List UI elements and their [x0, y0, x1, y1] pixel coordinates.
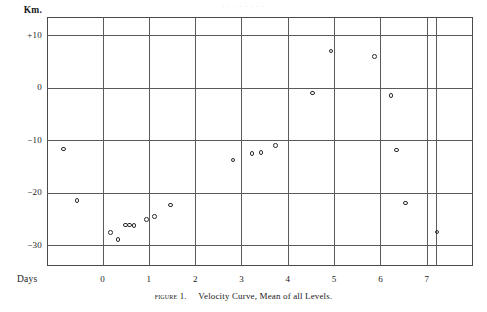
figure-caption: Figure 1. Velocity Curve, Mean of all Le… — [0, 291, 487, 301]
data-point — [259, 150, 264, 155]
gridline-vertical-day-6 — [380, 17, 381, 266]
gridline-vertical-day-0 — [103, 17, 104, 266]
gridline-vertical-day-7 — [427, 17, 428, 266]
gridline-vertical-day-1 — [149, 17, 150, 266]
x-tick-label: 6 — [368, 275, 392, 284]
gridline-vertical-extra — [436, 17, 437, 266]
page-bleed-through-text: · · · · · · · · — [0, 0, 487, 12]
data-point — [310, 91, 315, 96]
gridline-horizontal-0 — [47, 88, 473, 89]
figure-container: · · · · · · · · Km. +100−10−20−30 Days 0… — [0, 0, 487, 312]
y-tick-label: −20 — [27, 188, 42, 197]
x-tick-label: 3 — [229, 275, 253, 284]
x-tick-label: 5 — [322, 275, 346, 284]
gridline-horizontal-minus30 — [47, 245, 473, 246]
gridline-horizontal-minus20 — [47, 193, 473, 194]
y-tick-label: −30 — [27, 241, 42, 250]
data-point — [75, 198, 80, 203]
data-point — [144, 217, 149, 222]
x-tick-label: 2 — [183, 275, 207, 284]
data-point — [108, 230, 113, 235]
x-tick-label: 7 — [415, 275, 439, 284]
gridline-horizontal-minus10 — [47, 140, 473, 141]
plot-frame — [47, 17, 473, 266]
figure-caption-text: Velocity Curve, Mean of all Levels. — [198, 291, 332, 301]
y-tick-label: −10 — [27, 136, 42, 145]
y-tick-label: +10 — [27, 31, 42, 40]
x-tick-label: 0 — [91, 275, 115, 284]
gridline-vertical-day-5 — [334, 17, 335, 266]
data-point — [372, 54, 377, 59]
y-tick-label: 0 — [37, 83, 42, 92]
x-axis-title: Days — [17, 274, 37, 284]
y-axis-title: Km. — [24, 5, 42, 15]
data-point — [273, 143, 278, 148]
data-point — [152, 214, 157, 219]
x-tick-label: 1 — [137, 275, 161, 284]
x-tick-label: 4 — [276, 275, 300, 284]
gridline-vertical-day-2 — [195, 17, 196, 266]
figure-number: Figure 1. — [155, 291, 187, 301]
gridline-vertical-day-4 — [288, 17, 289, 266]
data-point — [403, 201, 408, 206]
gridline-vertical-day-3 — [241, 17, 242, 266]
plot-area — [47, 17, 473, 266]
data-point — [250, 151, 255, 156]
data-point — [116, 237, 121, 242]
gridline-horizontal-+10 — [47, 35, 473, 36]
y-axis-label-group: Km. +100−10−20−30 — [0, 0, 42, 312]
data-point — [61, 147, 66, 152]
